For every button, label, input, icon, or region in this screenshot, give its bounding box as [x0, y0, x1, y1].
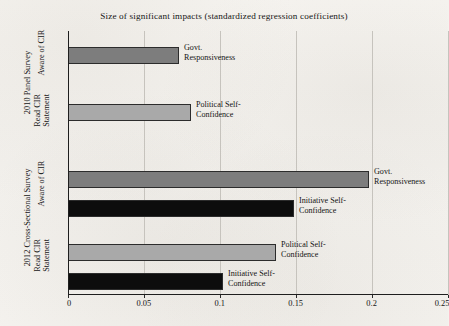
- bar-label-line1: Initiative Self-: [228, 269, 275, 279]
- bar-2012-read-initiative-self-confidence: [68, 273, 223, 290]
- tick-mark-0.15: [296, 295, 297, 298]
- y-subgroup-label-line2: Statement: [42, 90, 51, 130]
- bar-label-line1: Govt.: [374, 167, 425, 177]
- tick-label-0: 0: [67, 299, 71, 308]
- y-subgroup-label-line2: Statement: [42, 235, 51, 275]
- y-subgroup-label-2010-read-cir-statement: Read CIR Statement: [33, 90, 52, 130]
- tick-label-0.25: 0.25: [435, 299, 449, 308]
- tick-mark-0.1: [220, 295, 221, 298]
- bar-label-line1: Govt.: [184, 43, 235, 53]
- bar-label-line2: Confidence: [228, 279, 275, 289]
- bar-label-line1: Initiative Self-: [299, 196, 346, 206]
- gridline-0.25: [448, 31, 449, 295]
- bar-label-2010-read-political-self-confidence: Political Self- Confidence: [196, 100, 241, 119]
- tick-mark-0.25: [448, 295, 449, 298]
- tick-label-0.15: 0.15: [288, 299, 303, 308]
- bar-label-line2: Responsiveness: [374, 177, 425, 187]
- tick-label-0.05: 0.05: [137, 299, 152, 308]
- bar-label-line2: Confidence: [299, 206, 346, 216]
- y-subgroup-label-2012-read-cir-statement: Read CIR Statement: [33, 235, 52, 275]
- bar-label-2010-aware-govt-responsiveness: Govt. Responsiveness: [184, 43, 235, 62]
- bar-2012-aware-initiative-self-confidence: [68, 200, 294, 217]
- bar-label-line2: Confidence: [281, 250, 326, 260]
- y-group-label-2012-cross-sectional-survey: 2012 Cross-Sectional Survey: [23, 150, 32, 285]
- y-axis-line: [68, 31, 69, 295]
- bar-label-2012-read-political-self-confidence: Political Self- Confidence: [281, 240, 326, 259]
- x-axis-line: [68, 294, 448, 295]
- bar-2010-read-political-self-confidence: [68, 104, 191, 121]
- y-group-label-2010-panel-survey: 2010 Panel Survey: [23, 38, 32, 128]
- bar-label-line2: Confidence: [196, 110, 241, 120]
- tick-mark-0.05: [144, 295, 145, 298]
- y-subgroup-label-2010-aware-of-cir: Aware of CIR: [37, 21, 46, 85]
- tick-mark-0.2: [372, 295, 373, 298]
- bar-label-2012-aware-initiative-self-confidence: Initiative Self- Confidence: [299, 196, 346, 215]
- tick-label-0.1: 0.1: [215, 299, 225, 308]
- gridline-0.2: [372, 31, 373, 295]
- chart-title: Size of significant impacts (standardize…: [0, 11, 448, 21]
- bar-label-line1: Political Self-: [196, 100, 241, 110]
- plot-area: Govt. Responsiveness Political Self- Con…: [68, 31, 448, 295]
- bar-label-2012-read-initiative-self-confidence: Initiative Self- Confidence: [228, 269, 275, 288]
- bar-2010-aware-govt-responsiveness: [68, 47, 179, 64]
- bar-label-2012-aware-govt-responsiveness: Govt. Responsiveness: [374, 167, 425, 186]
- y-subgroup-label-line1: Read CIR: [33, 90, 42, 130]
- y-subgroup-label-line1: Read CIR: [33, 235, 42, 275]
- bar-2012-aware-govt-responsiveness: [68, 171, 369, 188]
- bar-2012-read-political-self-confidence: [68, 244, 276, 261]
- tick-mark-0: [68, 295, 69, 298]
- tick-label-0.2: 0.2: [366, 299, 376, 308]
- y-subgroup-label-2012-aware-of-cir: Aware of CIR: [37, 152, 46, 216]
- bar-label-line1: Political Self-: [281, 240, 326, 250]
- bar-label-line2: Responsiveness: [184, 53, 235, 63]
